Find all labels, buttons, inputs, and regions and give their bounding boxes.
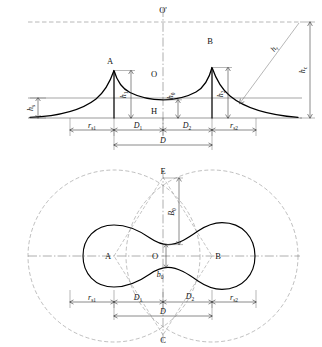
plan-view: A B O E C B0 b0 <box>28 166 300 345</box>
dim-label-d2-elevation: D2 <box>182 121 192 131</box>
engineering-drawing: A B O O' H hs h1 h0 <box>0 0 322 347</box>
dim-label-hc: hc <box>298 66 308 73</box>
dim-label-d1-plan: D1 <box>133 293 143 303</box>
elevation-view: A B O O' H hs h1 h0 <box>26 5 315 150</box>
dim-label-b0: B0 <box>167 208 177 216</box>
dim-label-rs1-elevation: rs1 <box>88 121 96 131</box>
label-point-e: E <box>160 166 165 176</box>
label-point-o-plan: O <box>152 251 158 261</box>
label-point-h: H <box>151 106 157 116</box>
dim-hs: hs <box>26 98 46 119</box>
dim-label-h2: h2 <box>216 90 226 97</box>
label-point-b-elevation: B <box>207 36 213 46</box>
label-point-a-plan: A <box>105 251 112 261</box>
label-point-o-prime: O' <box>159 5 167 15</box>
profile-curve <box>30 68 298 118</box>
dim-h0: h0 <box>163 92 182 118</box>
dim-label-d2-plan: D2 <box>185 292 195 302</box>
dim-h1: h1 <box>114 70 135 118</box>
dim-hc: hc <box>298 22 315 119</box>
dim-label-rs2-plan: rs2 <box>230 293 238 303</box>
label-point-b-plan: B <box>215 251 221 261</box>
dim-label-h1: h1 <box>119 91 129 98</box>
label-point-o-elevation: O <box>151 69 157 79</box>
dim-label-b0-small: b0 <box>157 270 164 280</box>
dim-b0: B0 <box>163 178 183 245</box>
dim-chain-elevation: rs1 D1 D2 rs2 <box>70 118 257 136</box>
dim-label-hs: hs <box>26 105 36 111</box>
label-point-c: C <box>160 335 166 345</box>
dim-label-d1-elevation: D1 <box>133 121 143 131</box>
dim-label-hr: hr <box>269 43 280 54</box>
label-point-a-elevation: A <box>107 56 114 66</box>
dim-label-d-elevation: D <box>159 136 166 145</box>
dim-chain-plan: rs1 D1 D2 rs2 <box>70 290 257 308</box>
dim-label-rs1-plan: rs1 <box>88 293 96 303</box>
dim-label-h0: h0 <box>166 92 176 99</box>
dim-b0-small: b0 <box>157 244 168 279</box>
dim-label-rs2-elevation: rs2 <box>230 121 238 131</box>
dim-label-d-plan: D <box>159 307 166 316</box>
dim-hr: hr <box>239 23 299 104</box>
